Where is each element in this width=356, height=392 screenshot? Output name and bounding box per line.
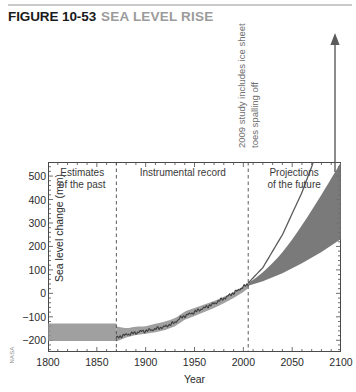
sea-level-chart: Sea level change (mm) Year 5004003002001…	[48, 162, 341, 352]
x-axis-title: Year	[48, 373, 341, 385]
y-tick-label: 300	[2, 217, 46, 229]
x-tick-label: 2050	[269, 356, 315, 368]
y-tick-label: 100	[2, 264, 46, 276]
y-axis-title: Sea level change (mm)	[53, 133, 65, 323]
x-tick-label: 1900	[123, 356, 169, 368]
x-tick-label: 1850	[74, 356, 120, 368]
region-label-instrumental-record: Instrumental record	[128, 167, 238, 179]
x-tick-label: 1800	[25, 356, 71, 368]
y-tick-label: 0	[2, 287, 46, 299]
x-tick-label: 2000	[220, 356, 266, 368]
y-tick-label: 200	[2, 240, 46, 252]
y-tick-label: −100	[2, 311, 46, 323]
page-title: SEA LEVEL RISE	[101, 9, 213, 24]
figure-top-rule	[8, 4, 352, 6]
y-tick-label: 400	[2, 194, 46, 206]
region-label-estimates-of-the-past: Estimates of the past	[27, 167, 137, 191]
projection-arrow	[328, 32, 342, 172]
figure-number: FIGURE 10-53	[8, 9, 96, 24]
instrumental-band	[116, 283, 248, 341]
y-tick-label: −200	[2, 334, 46, 346]
spalling-annotation: 2009 study includes ice sheet toes spall…	[236, 8, 264, 148]
historical-estimates-band	[48, 323, 116, 341]
figure-caption: FIGURE 10-53SEA LEVEL RISE	[8, 9, 213, 24]
x-tick-label: 2100	[318, 356, 356, 368]
x-tick-label: 1950	[172, 356, 218, 368]
